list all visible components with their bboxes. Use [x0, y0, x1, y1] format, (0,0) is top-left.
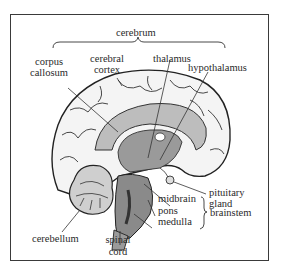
label-thalamus: thalamus	[153, 53, 191, 64]
label-cerebellum: cerebellum	[32, 233, 79, 244]
label-brainstem: brainstem	[210, 207, 251, 218]
label-medulla: medulla	[158, 216, 192, 227]
label-pons: pons	[158, 205, 178, 216]
label-cerebral-cortex-line2: cortex	[86, 64, 128, 75]
label-hypothalamus: hypothalamus	[188, 62, 247, 73]
cerebrum-bracket	[53, 37, 225, 48]
brainstem-bracket	[200, 197, 207, 229]
label-cerebrum: cerebrum	[116, 27, 156, 38]
label-cerebral-cortex-line1: cerebral	[86, 53, 128, 64]
brain-illustration	[0, 0, 282, 269]
label-midbrain: midbrain	[158, 193, 196, 204]
label-corpus-callosum-line1: corpus	[28, 56, 70, 67]
label-spinal-cord-line2: cord	[100, 246, 136, 257]
thalamus-spot	[155, 133, 165, 141]
leader-cerebellum	[62, 210, 80, 232]
pituitary-gland-shape	[166, 176, 174, 184]
label-spinal-cord-line1: spinal	[100, 234, 136, 245]
label-pituitary-line1: pituitary	[209, 187, 245, 198]
brainstem-shape	[115, 174, 153, 240]
label-corpus-callosum-line2: callosum	[28, 67, 70, 78]
